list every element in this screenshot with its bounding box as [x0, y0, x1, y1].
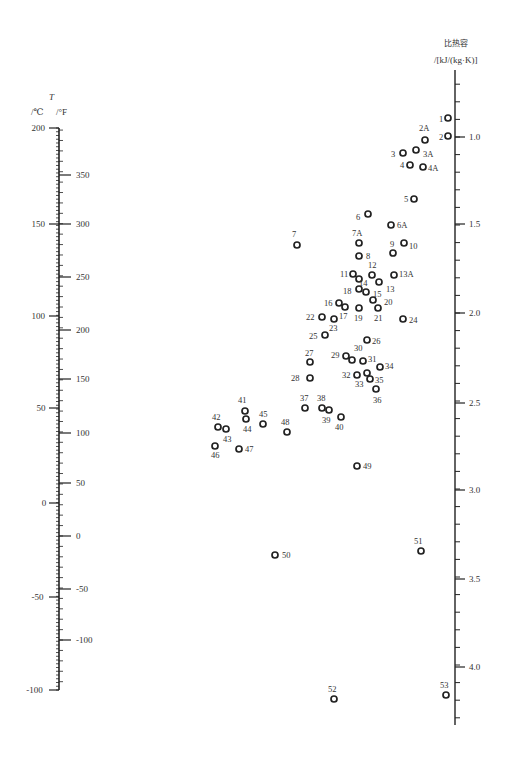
- data-point-24: [400, 316, 406, 322]
- point-label-22: 22: [306, 312, 315, 322]
- specific-heat-tick-label: 3.5: [469, 574, 480, 584]
- fahrenheit-tick-label: 200: [76, 325, 90, 335]
- point-label-50: 50: [282, 550, 291, 560]
- specific-heat-tick-label: 3.0: [469, 485, 480, 495]
- celsius-tick-label: 0: [42, 498, 47, 508]
- point-label-11: 11: [340, 269, 348, 279]
- specific-heat-tick-label: 4.0: [469, 662, 480, 672]
- point-label-15: 15: [373, 289, 382, 299]
- fahrenheit-unit-label: /°F: [56, 107, 67, 117]
- data-point-36: [373, 386, 379, 392]
- fahrenheit-tick-label: -50: [76, 584, 88, 594]
- data-point-46: [212, 443, 218, 449]
- point-label-53: 53: [440, 680, 449, 690]
- data-point-27: [307, 359, 313, 365]
- celsius-tick-label: -50: [31, 592, 43, 602]
- point-label-39: 39: [322, 415, 331, 425]
- point-label-10: 10: [409, 241, 418, 251]
- data-point-5: [411, 196, 417, 202]
- data-point-38: [319, 405, 325, 411]
- point-label-4: 4: [400, 160, 404, 170]
- point-label-23: 23: [329, 323, 338, 333]
- fahrenheit-tick-label: 150: [76, 374, 90, 384]
- data-point-31: [360, 358, 366, 364]
- point-label-49: 49: [363, 461, 372, 471]
- point-label-35: 35: [375, 375, 384, 385]
- point-label-3: 3: [391, 149, 395, 159]
- point-label-33: 33: [355, 379, 364, 389]
- point-label-20: 20: [384, 297, 393, 307]
- point-label-36: 36: [373, 395, 382, 405]
- data-point-8: [356, 253, 362, 259]
- data-point-29: [343, 353, 349, 359]
- point-label-2: 2: [439, 132, 443, 142]
- data-point-1: [445, 115, 451, 121]
- data-point-53: [443, 692, 449, 698]
- data-point-13: [376, 279, 382, 285]
- point-label-21: 21: [374, 313, 383, 323]
- point-label-28: 28: [291, 373, 300, 383]
- celsius-tick-label: 50: [37, 403, 46, 413]
- data-point-34: [377, 364, 383, 370]
- data-point-33: [364, 370, 370, 376]
- data-point-19: [356, 305, 362, 311]
- data-point-23: [331, 316, 337, 322]
- point-label-30: 30: [354, 343, 363, 353]
- point-label-38: 38: [317, 393, 326, 403]
- nomograph-chart: [0, 0, 512, 773]
- data-points: [212, 115, 451, 702]
- point-label-13: 13: [386, 284, 395, 294]
- specific-heat-tick-label: 1.0: [469, 132, 480, 142]
- data-point-3a: [413, 147, 419, 153]
- point-label-40: 40: [335, 422, 344, 432]
- point-label-27: 27: [305, 348, 314, 358]
- data-point-50: [272, 552, 278, 558]
- temperature-symbol: T: [49, 92, 54, 102]
- point-label-52: 52: [328, 684, 337, 694]
- data-point-37: [302, 405, 308, 411]
- celsius-unit-label: /℃: [31, 107, 44, 117]
- data-point-44: [243, 416, 249, 422]
- data-point-4: [407, 162, 413, 168]
- data-point-22: [319, 314, 325, 320]
- specific-heat-title: 比热容: [444, 37, 468, 48]
- specific-heat-tick-label: 2.5: [469, 398, 480, 408]
- specific-heat-axis: [455, 70, 465, 725]
- fahrenheit-tick-label: 50: [76, 478, 85, 488]
- point-label-41: 41: [238, 395, 247, 405]
- point-label-5: 5: [404, 194, 408, 204]
- point-label-51: 51: [414, 536, 423, 546]
- data-point-41: [242, 408, 248, 414]
- point-label-2a: 2A: [419, 123, 429, 133]
- data-point-11: [350, 271, 356, 277]
- point-label-12: 12: [368, 260, 377, 270]
- point-label-24: 24: [409, 315, 418, 325]
- point-label-14: 14: [359, 278, 368, 288]
- data-point-45: [260, 421, 266, 427]
- data-point-2: [445, 133, 451, 139]
- data-point-12: [369, 272, 375, 278]
- point-label-19: 19: [354, 313, 363, 323]
- point-label-6a: 6A: [397, 220, 407, 230]
- data-point-9: [390, 250, 396, 256]
- temperature-axis: [49, 128, 71, 690]
- data-point-13a: [391, 272, 397, 278]
- data-point-26: [364, 337, 370, 343]
- point-label-1: 1: [439, 114, 443, 124]
- point-label-25: 25: [309, 331, 318, 341]
- data-point-16: [336, 300, 342, 306]
- fahrenheit-tick-label: 300: [76, 219, 90, 229]
- data-point-7a: [356, 240, 362, 246]
- data-point-21: [375, 305, 381, 311]
- data-point-2a: [422, 137, 428, 143]
- point-label-16: 16: [324, 298, 333, 308]
- point-label-4a: 4A: [428, 163, 438, 173]
- point-label-34: 34: [385, 361, 394, 371]
- fahrenheit-tick-label: 350: [76, 170, 90, 180]
- point-label-43: 43: [223, 434, 232, 444]
- specific-heat-tick-label: 2.0: [469, 308, 480, 318]
- point-label-17: 17: [339, 311, 348, 321]
- data-point-35: [367, 376, 373, 382]
- data-point-25: [322, 332, 328, 338]
- specific-heat-tick-label: 1.5: [469, 219, 480, 229]
